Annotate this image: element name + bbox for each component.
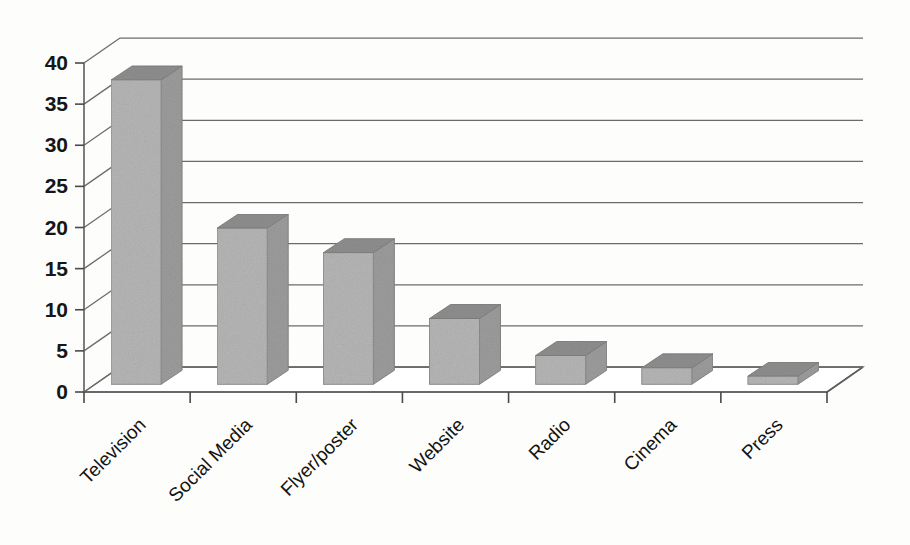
bar-front-face: [323, 253, 373, 385]
x-axis-category-label: Cinema: [619, 414, 680, 475]
x-axis-ticks-group: [84, 392, 827, 403]
bar-column: [323, 239, 394, 385]
gridline-depth-connector: [84, 38, 120, 63]
bar-column: [217, 214, 288, 384]
x-axis-category-label: Website: [405, 414, 468, 477]
x-axis-category-label: Television: [76, 414, 150, 488]
bar-column: [536, 342, 607, 385]
bar-side-face: [267, 214, 288, 384]
y-axis-tick-label: 10: [45, 298, 68, 321]
bar-front-face: [748, 376, 798, 384]
x-axis-category-label: Press: [738, 414, 787, 463]
y-axis-tick-label: 5: [56, 339, 68, 362]
x-axis-category-label: Flyer/poster: [276, 414, 362, 500]
y-axis-tick-label: 40: [45, 51, 68, 74]
bar-side-face: [161, 66, 182, 384]
bar-front-face: [111, 80, 161, 384]
y-axis-tick-label: 35: [45, 92, 69, 115]
bar-side-face: [373, 239, 394, 385]
bar-chart-figure: 0510152025303540 TelevisionSocial MediaF…: [0, 0, 910, 545]
y-axis-tick-label: 20: [45, 216, 68, 239]
y-axis-tick-label: 25: [45, 174, 69, 197]
bar-column: [111, 66, 182, 384]
bar-front-face: [642, 368, 692, 384]
bar-front-face: [536, 356, 586, 385]
y-axis-tick-label: 30: [45, 133, 68, 156]
bar-column: [430, 305, 501, 385]
y-axis-ticks-group: [75, 63, 84, 392]
bars-group: [111, 66, 819, 384]
y-axis-tick-label: 0: [56, 380, 68, 403]
chart-canvas: 0510152025303540 TelevisionSocial MediaF…: [0, 0, 910, 545]
bar-front-face: [430, 319, 480, 385]
x-axis-labels-group: TelevisionSocial MediaFlyer/posterWebsit…: [76, 414, 787, 506]
x-axis-category-label: Social Media: [164, 414, 256, 506]
bar-front-face: [217, 228, 267, 384]
y-axis-labels-group: 0510152025303540: [45, 51, 69, 403]
x-axis-category-label: Radio: [525, 414, 575, 464]
y-axis-tick-label: 15: [45, 257, 69, 280]
